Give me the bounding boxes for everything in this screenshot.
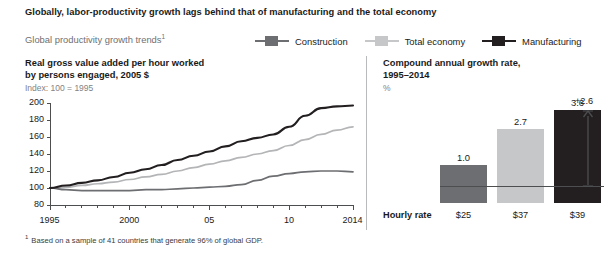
footnote-text: Based on a sample of 41 countries that g… [31, 236, 263, 245]
exhibit-footnote: 1Based on a sample of 41 countries that … [25, 234, 263, 245]
footnote-marker: 1 [25, 234, 28, 240]
exhibit-root: Globally, labor-productivity growth lags… [0, 0, 611, 253]
delta-annotation-label: +2.6 [575, 96, 593, 106]
delta-annotation-arrow-icon [0, 0, 611, 253]
